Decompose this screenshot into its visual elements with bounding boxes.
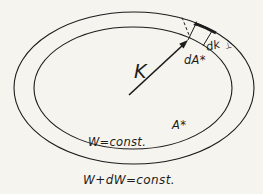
area-element-label: dA* xyxy=(184,53,206,67)
paper-background xyxy=(0,0,263,194)
outer-surface-label: W+dW=const. xyxy=(83,173,175,187)
energy-surface-diagram: K dA* dk ⊥ A* W=const. W+dW=const. xyxy=(0,0,263,194)
diagram-canvas: K dA* dk ⊥ A* W=const. W+dW=const. xyxy=(0,0,263,194)
inner-surface-label: W=const. xyxy=(88,135,146,149)
k-vector-label: K xyxy=(134,60,148,82)
surface-area-label: A* xyxy=(171,118,186,132)
